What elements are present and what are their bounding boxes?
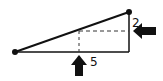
triangle-diagram: 2 5 bbox=[0, 0, 163, 81]
up-pointing-arrow-icon bbox=[71, 55, 87, 76]
label-vertical-offset: 2 bbox=[132, 16, 140, 30]
hypotenuse-line bbox=[15, 12, 129, 52]
label-horizontal-offset: 5 bbox=[90, 55, 98, 69]
left-vertex-point bbox=[12, 49, 18, 55]
top-vertex-point bbox=[126, 9, 132, 15]
